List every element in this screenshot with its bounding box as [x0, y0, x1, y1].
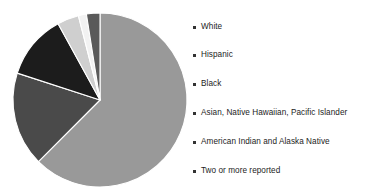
legend-label-white: White [201, 21, 222, 33]
legend-item-american-indian-alaska-native[interactable]: American Indian and Alaska Native [193, 136, 330, 148]
legend-label-black: Black [201, 78, 221, 90]
pie-slice-group [13, 13, 187, 187]
legend-swatch-asian-nhpi-icon [193, 112, 196, 115]
legend-item-two-or-more-reported[interactable]: Two or more reported [193, 165, 280, 177]
legend-swatch-hispanic-icon [193, 54, 196, 57]
legend-label-two-or-more-reported: Two or more reported [201, 165, 280, 177]
legend-item-asian-nhpi[interactable]: Asian, Native Hawaiian, Pacific Islander [193, 107, 347, 119]
legend-swatch-black-icon [193, 83, 196, 86]
legend-item-black[interactable]: Black [193, 78, 221, 90]
legend-label-hispanic: Hispanic [201, 49, 233, 61]
pie-chart-figure: White Hispanic Black Asian, Native Hawai… [0, 0, 380, 195]
legend-item-hispanic[interactable]: Hispanic [193, 49, 233, 61]
legend-swatch-two-or-more-reported-icon [193, 170, 196, 173]
pie-plot-area [0, 0, 195, 195]
legend-item-white[interactable]: White [193, 21, 222, 33]
chart-legend: White Hispanic Black Asian, Native Hawai… [193, 0, 380, 195]
legend-label-asian-nhpi: Asian, Native Hawaiian, Pacific Islander [201, 107, 347, 119]
legend-swatch-white-icon [193, 26, 196, 29]
legend-label-american-indian-alaska-native: American Indian and Alaska Native [201, 136, 330, 148]
legend-swatch-american-indian-alaska-native-icon [193, 141, 196, 144]
pie-svg [0, 0, 195, 195]
